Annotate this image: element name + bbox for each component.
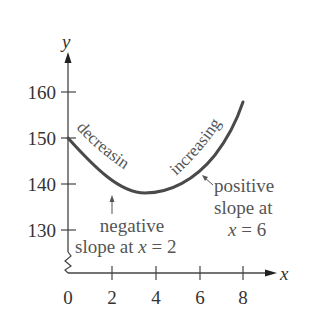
chart: y x 160 150 140 130 0 2 4 6 8 decreasing… bbox=[0, 0, 309, 329]
x-tick-label-6: 6 bbox=[195, 287, 205, 308]
y-axis-arrow-icon bbox=[65, 52, 72, 63]
y-tick-label-140: 140 bbox=[28, 174, 57, 195]
y-axis-label: y bbox=[60, 31, 71, 52]
decreasing-label: decreasing bbox=[0, 0, 133, 173]
x-tick-label-4: 4 bbox=[151, 287, 161, 308]
arrowhead-icon bbox=[110, 195, 115, 202]
x-tick-label-8: 8 bbox=[238, 287, 248, 308]
increasing-label: increasing bbox=[166, 114, 225, 179]
positive-label-line2: slope at bbox=[214, 197, 273, 218]
negative-label-line1: negative bbox=[100, 215, 164, 236]
x-tick-label-2: 2 bbox=[107, 287, 117, 308]
y-tick-label-130: 130 bbox=[28, 220, 57, 241]
negative-label-line2: slope at x = 2 bbox=[75, 236, 176, 257]
y-tick-label-160: 160 bbox=[28, 82, 57, 103]
positive-label-line1: positive bbox=[214, 175, 274, 196]
axis-break-icon bbox=[65, 252, 71, 273]
x-tick-label-0: 0 bbox=[63, 287, 73, 308]
positive-label-line3: x = 6 bbox=[227, 219, 266, 240]
x-axis-arrow-icon bbox=[265, 270, 277, 277]
y-tick-label-150: 150 bbox=[28, 128, 57, 149]
x-axis-label: x bbox=[279, 263, 289, 284]
